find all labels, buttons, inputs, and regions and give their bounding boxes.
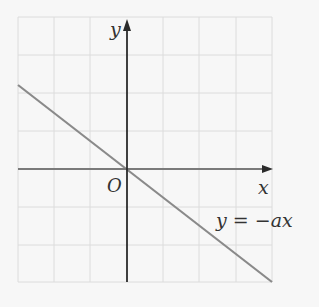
origin-label: O [107, 175, 122, 196]
y-axis [123, 19, 131, 282]
x-axis-label: x [258, 176, 269, 198]
grid [18, 17, 272, 282]
equation-label: y = −ax [215, 209, 293, 231]
coordinate-graph: y x O y = −ax [0, 0, 319, 307]
x-axis-arrow-icon [262, 165, 273, 173]
y-axis-label: y [109, 18, 121, 40]
y-axis-arrow-icon [123, 19, 131, 31]
graph-line [18, 85, 272, 282]
x-axis [18, 165, 273, 173]
